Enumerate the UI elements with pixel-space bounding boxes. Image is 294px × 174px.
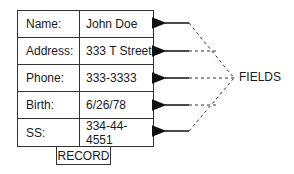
fields-label: FIELDS xyxy=(239,70,281,84)
connector-lines xyxy=(0,0,294,174)
